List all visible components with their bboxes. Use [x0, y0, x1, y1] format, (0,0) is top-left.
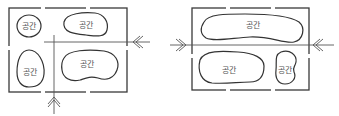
left-diagram: 공간 공간 공간 공간 — [9, 8, 150, 114]
space-bottom-left: 공간 — [199, 51, 264, 83]
space-label: 공간 — [80, 59, 95, 69]
right-diagram: 공간 공간 공간 — [170, 8, 334, 90]
space-bottom-right: 공간 — [62, 50, 118, 80]
space-label: 공간 — [246, 20, 261, 30]
space-label: 공간 — [79, 20, 94, 30]
space-top-right: 공간 — [64, 13, 108, 36]
space-top-wide: 공간 — [201, 14, 303, 42]
space-bottom-left: 공간 — [17, 50, 44, 87]
zoning-diagrams: 공간 공간 공간 공간 — [0, 0, 339, 116]
space-bottom-right: 공간 — [276, 51, 296, 84]
space-label: 공간 — [222, 65, 237, 75]
space-label: 공간 — [22, 21, 37, 31]
space-label: 공간 — [23, 67, 38, 77]
space-label: 공간 — [278, 65, 293, 75]
space-small-circle: 공간 — [17, 15, 41, 37]
